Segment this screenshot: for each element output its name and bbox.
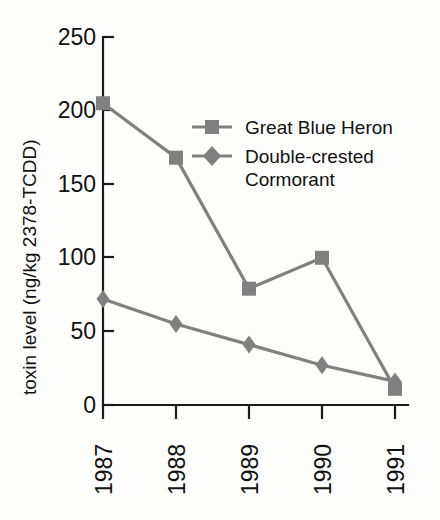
y-axis-label: toxin level (ng/kg 2378-TCDD): [19, 139, 40, 395]
chart-container: toxin level (ng/kg 2378-TCDD) 250 200 15…: [0, 0, 440, 520]
square-marker: [242, 282, 256, 296]
diamond-marker: [316, 356, 329, 374]
square-marker: [315, 251, 329, 265]
square-marker-icon: [205, 120, 219, 134]
legend-label-great-blue-heron: Great Blue Heron: [245, 117, 393, 138]
x-tick-label-1989: 1989: [237, 444, 263, 495]
square-marker: [96, 96, 110, 110]
square-marker: [169, 151, 183, 165]
y-tick-label-50: 50: [70, 318, 96, 344]
diamond-marker: [170, 315, 183, 333]
chart-legend: Great Blue Heron Double-crested Cormoran…: [192, 117, 393, 190]
legend-marker-double-crested-cormorant: [192, 146, 232, 166]
diamond-marker: [97, 290, 110, 308]
series-double-crested-cormorant: [97, 290, 402, 390]
y-tick-marks: [103, 37, 114, 405]
legend-label-double-crested-cormorant-line2: Cormorant: [245, 169, 335, 190]
x-tick-label-1987: 1987: [91, 444, 117, 495]
y-tick-label-150: 150: [58, 171, 96, 197]
x-tick-label-1988: 1988: [164, 444, 190, 495]
y-tick-label-100: 100: [58, 244, 96, 270]
line-chart: toxin level (ng/kg 2378-TCDD) 250 200 15…: [0, 0, 440, 520]
data-series-layer: [96, 96, 402, 396]
x-tick-label-1990: 1990: [310, 444, 336, 495]
legend-marker-great-blue-heron: [192, 120, 232, 134]
legend-label-double-crested-cormorant-line1: Double-crested: [245, 146, 374, 167]
y-tick-label-250: 250: [58, 24, 96, 50]
y-tick-label-0: 0: [83, 392, 96, 418]
x-tick-marks: [103, 405, 395, 419]
diamond-marker-icon: [203, 146, 221, 166]
diamond-marker: [243, 336, 256, 354]
x-tick-label-1991: 1991: [383, 444, 409, 495]
y-tick-label-200: 200: [58, 97, 96, 123]
